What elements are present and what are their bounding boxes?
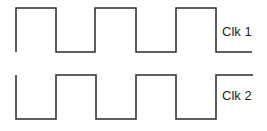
clk2-waveform: [16, 75, 253, 119]
clk2-label: Clk 2: [222, 88, 252, 103]
clk1-waveform: [16, 8, 252, 52]
timing-diagram: [0, 0, 267, 131]
clk1-label: Clk 1: [222, 24, 252, 39]
